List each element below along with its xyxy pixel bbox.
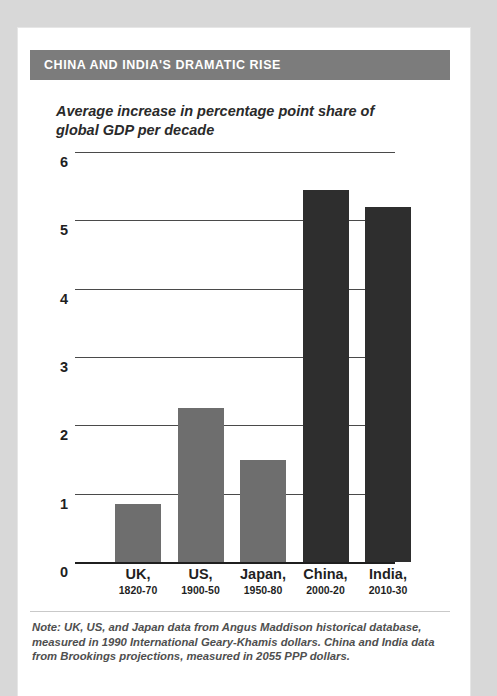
category-name: US, xyxy=(170,567,232,582)
x-axis-label-us: US,1900-50 xyxy=(170,567,232,595)
category-period: 2010-30 xyxy=(357,585,419,596)
footnote-divider xyxy=(30,611,450,612)
y-axis-tick-label: 2 xyxy=(60,428,68,443)
y-axis-tick-label: 1 xyxy=(60,497,68,512)
bar-us xyxy=(178,408,224,562)
x-axis-label-india: India,2010-30 xyxy=(357,567,419,595)
category-period: 1950-80 xyxy=(232,585,294,596)
bar-china xyxy=(303,190,349,562)
gridline xyxy=(75,152,395,153)
chart-footnote: Note: UK, US, and Japan data from Angus … xyxy=(32,620,452,664)
bar-chart: 0123456 UK,1820-70US,1900-50Japan,1950-8… xyxy=(18,28,470,696)
x-axis-label-japan: Japan,1950-80 xyxy=(232,567,294,595)
x-axis-label-uk: UK,1820-70 xyxy=(107,567,169,595)
bar-india xyxy=(365,207,411,562)
category-period: 1900-50 xyxy=(170,585,232,596)
y-axis-tick-label: 5 xyxy=(60,223,68,238)
category-name: UK, xyxy=(107,567,169,582)
plot-area: 0123456 xyxy=(75,152,395,562)
figure-card: CHINA AND INDIA'S DRAMATIC RISE Average … xyxy=(18,28,470,696)
category-period: 2000-20 xyxy=(295,585,357,596)
chart-figure: CHINA AND INDIA'S DRAMATIC RISE Average … xyxy=(0,0,497,696)
category-name: India, xyxy=(357,567,419,582)
axis-baseline xyxy=(75,562,395,564)
category-name: Japan, xyxy=(232,567,294,582)
y-axis-tick-label: 4 xyxy=(60,292,68,307)
y-axis-tick-label: 6 xyxy=(60,155,68,170)
x-axis-label-china: China,2000-20 xyxy=(295,567,357,595)
bar-uk xyxy=(115,504,161,562)
category-name: China, xyxy=(295,567,357,582)
bar-japan xyxy=(240,460,286,563)
category-period: 1820-70 xyxy=(107,585,169,596)
y-axis-tick-label: 0 xyxy=(60,565,68,580)
y-axis-tick-label: 3 xyxy=(60,360,68,375)
